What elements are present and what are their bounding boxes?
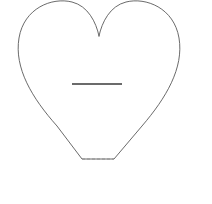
vector-drawing-surface[interactable]: [0, 0, 212, 204]
canvas-background: [0, 0, 212, 204]
drawing-canvas[interactable]: [0, 0, 212, 204]
